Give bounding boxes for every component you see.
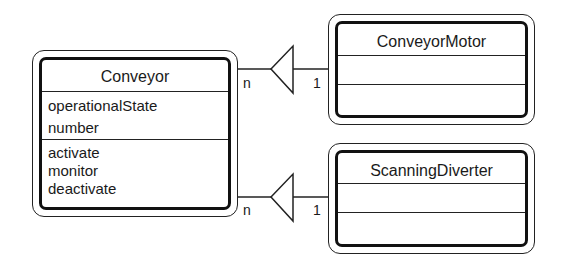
multiplicity-n: n [243,75,251,91]
class-scanning-diverter-body: ScanningDiverter [335,150,528,247]
operation: monitor [48,162,98,179]
multiplicity-1: 1 [313,75,321,91]
divider [42,91,228,92]
triangle-icon [271,46,293,93]
divider [338,84,525,85]
class-name: ScanningDiverter [338,162,525,180]
triangle-icon [271,174,293,221]
divider [338,212,525,213]
attribute: operationalState [48,97,157,114]
class-name: ConveyorMotor [338,33,525,51]
class-conveyor-motor-body: ConveyorMotor [335,21,528,118]
divider [42,139,228,140]
operation: deactivate [48,180,116,197]
class-conveyor-body: Conveyor operationalState number activat… [39,57,231,210]
attribute: number [48,119,99,136]
divider [338,55,525,56]
multiplicity-n: n [243,202,251,218]
divider [338,183,525,184]
multiplicity-1: 1 [313,202,321,218]
class-name: Conveyor [42,68,228,86]
operation: activate [48,144,100,161]
